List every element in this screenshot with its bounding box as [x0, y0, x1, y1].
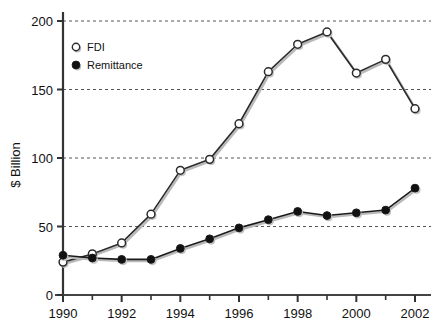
data-point[interactable] — [235, 224, 243, 232]
y-tick-label: 200 — [31, 14, 53, 29]
data-point[interactable] — [264, 216, 272, 224]
data-point[interactable] — [176, 245, 184, 253]
data-point[interactable] — [147, 210, 155, 218]
y-tick-label: 100 — [31, 151, 53, 166]
y-axis-title: $ Billion — [8, 142, 23, 188]
x-tick-label: 1996 — [225, 306, 254, 321]
data-point[interactable] — [382, 206, 390, 214]
legend-marker-remittance — [72, 61, 80, 69]
data-point[interactable] — [118, 255, 126, 263]
legend-marker-fdi — [72, 43, 79, 50]
axes — [55, 12, 431, 295]
data-point[interactable] — [294, 208, 302, 216]
data-point[interactable] — [352, 69, 360, 77]
data-point[interactable] — [176, 166, 184, 174]
x-tick-label: 1994 — [166, 306, 195, 321]
data-point[interactable] — [411, 184, 419, 192]
data-point[interactable] — [118, 239, 126, 247]
data-point[interactable] — [235, 120, 243, 128]
data-point[interactable] — [323, 212, 331, 220]
data-point[interactable] — [382, 55, 390, 63]
legend-label: FDI — [87, 41, 105, 53]
data-point[interactable] — [352, 209, 360, 217]
legend-label: Remittance — [87, 59, 143, 71]
x-tick-label: 1992 — [107, 306, 136, 321]
data-point[interactable] — [206, 155, 214, 163]
data-point[interactable] — [411, 105, 419, 113]
series-remittance — [59, 184, 420, 265]
y-tick-label: 50 — [39, 220, 53, 235]
y-tick-label: 0 — [46, 288, 53, 303]
x-tick-label: 2000 — [342, 306, 371, 321]
legend: FDIRemittance — [72, 41, 143, 71]
x-tick-label: 2002 — [401, 306, 430, 321]
chart-container: 0501001502001990199219941996199820002002… — [0, 0, 434, 331]
x-tick-label: 1998 — [283, 306, 312, 321]
data-point[interactable] — [294, 40, 302, 48]
data-point[interactable] — [206, 235, 214, 243]
x-tick-label: 1990 — [49, 306, 78, 321]
data-point[interactable] — [88, 254, 96, 262]
data-point[interactable] — [264, 68, 272, 76]
y-tick-label: 150 — [31, 83, 53, 98]
gridlines — [63, 21, 431, 227]
data-point[interactable] — [147, 255, 155, 263]
data-point[interactable] — [59, 251, 67, 259]
y-axis-ticks: 050100150200 — [31, 14, 63, 303]
x-axis-ticks: 1990199219941996199820002002 — [49, 295, 430, 321]
data-point[interactable] — [323, 28, 331, 36]
line-chart: 0501001502001990199219941996199820002002… — [0, 0, 434, 331]
